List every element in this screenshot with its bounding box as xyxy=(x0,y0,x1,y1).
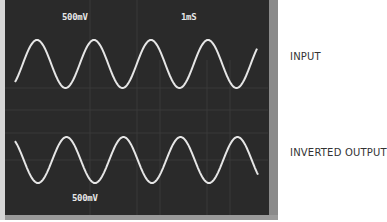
waveform-plot xyxy=(0,0,278,220)
input-waveform xyxy=(15,40,257,88)
oscilloscope-display: 500mV 1mS 500mV xyxy=(0,0,278,220)
input-label: INPUT xyxy=(290,51,321,62)
inverted-output-label: INVERTED OUTPUT xyxy=(290,147,387,158)
time-div: 1mS xyxy=(181,12,196,22)
top-channel-volts-div: 500mV xyxy=(62,12,88,22)
bottom-channel-volts-div: 500mV xyxy=(72,193,98,203)
graticule xyxy=(5,0,268,215)
